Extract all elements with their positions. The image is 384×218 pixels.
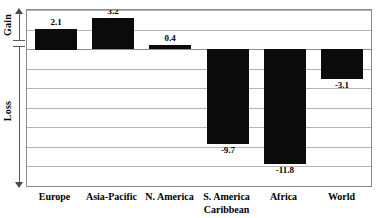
- bar: [264, 49, 306, 164]
- x-axis-category-label: World: [313, 190, 370, 203]
- x-axis-category-label: Europe: [26, 190, 83, 203]
- loss-label: Loss: [2, 89, 16, 133]
- zero-line: [27, 49, 371, 50]
- gridline: [27, 166, 371, 167]
- loss-axis-line: [19, 46, 20, 182]
- bar: [321, 49, 363, 79]
- bar-chart: Gain Loss 2.13.20.4-9.7-11.8-3.1 EuropeA…: [0, 0, 384, 218]
- gridline: [27, 69, 371, 70]
- gain-axis-line: [19, 14, 20, 40]
- x-axis-category-label: S. America Caribbean: [198, 190, 255, 216]
- x-axis-category-label: Asia-Pacific: [83, 190, 140, 203]
- x-axis-category-label: N. America: [141, 190, 198, 203]
- bar-value-label: 3.2: [83, 9, 143, 16]
- gridline: [27, 10, 371, 11]
- bar: [207, 49, 249, 144]
- y-axis-gain-loss: Gain Loss: [0, 8, 26, 188]
- gridline: [27, 108, 371, 109]
- bar-value-label: 2.1: [26, 17, 86, 27]
- x-axis-labels: EuropeAsia-PacificN. AmericaS. America C…: [26, 190, 372, 218]
- x-axis-category-label: Africa: [255, 190, 312, 203]
- gain-label: Gain: [2, 3, 16, 47]
- bar: [35, 29, 77, 50]
- gridline: [27, 186, 371, 187]
- bar-value-label: -3.1: [312, 80, 372, 90]
- plot-area: 2.13.20.4-9.7-11.8-3.1: [26, 9, 372, 187]
- gridline: [27, 30, 371, 31]
- bar: [92, 18, 134, 49]
- bar-value-label: 0.4: [140, 33, 200, 43]
- arrow-down-icon: [15, 182, 23, 188]
- bar-value-label: -11.8: [255, 165, 315, 175]
- bar: [149, 45, 191, 49]
- gridline: [27, 127, 371, 128]
- bar-value-label: -9.7: [198, 145, 258, 155]
